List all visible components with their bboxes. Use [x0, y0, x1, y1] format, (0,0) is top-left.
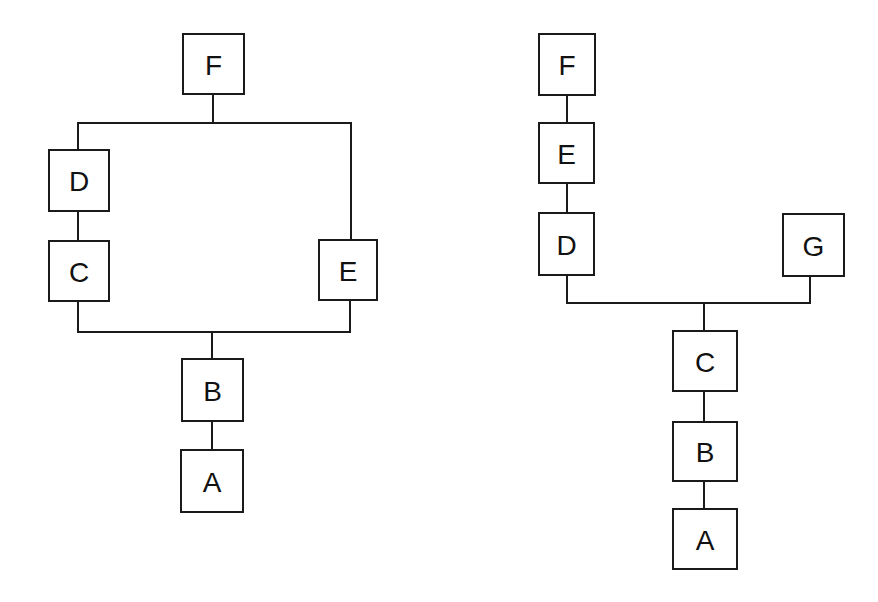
connector-line: [78, 123, 351, 240]
node-g: G: [783, 214, 844, 276]
node-b: B: [182, 359, 243, 421]
connector-line: [567, 275, 810, 303]
node-d: D: [49, 150, 109, 211]
node-f: F: [539, 34, 595, 95]
node-label: A: [203, 467, 222, 498]
left-tree: FDCEBA: [49, 34, 377, 512]
node-c: C: [673, 331, 737, 391]
connector-line: [78, 300, 350, 332]
node-label: E: [557, 139, 576, 170]
node-label: B: [203, 376, 222, 407]
node-label: B: [696, 437, 715, 468]
node-a: A: [181, 450, 243, 512]
node-f: F: [183, 34, 244, 94]
node-label: D: [69, 166, 89, 197]
node-label: E: [339, 256, 358, 287]
node-b: B: [673, 422, 737, 481]
node-d: D: [539, 213, 594, 275]
node-label: D: [556, 230, 576, 261]
node-label: F: [558, 50, 575, 81]
node-label: F: [205, 50, 222, 81]
node-e: E: [539, 123, 594, 183]
node-e: E: [319, 240, 377, 300]
node-label: A: [696, 525, 715, 556]
node-a: A: [673, 509, 737, 569]
diagram-canvas: FDCEBA FEDGCBA: [0, 0, 878, 602]
node-label: C: [69, 257, 89, 288]
node-c: C: [49, 241, 109, 301]
tree-diagrams: FDCEBA FEDGCBA: [0, 0, 878, 602]
right-tree: FEDGCBA: [539, 34, 844, 569]
node-label: G: [803, 231, 825, 262]
node-label: C: [695, 347, 715, 378]
